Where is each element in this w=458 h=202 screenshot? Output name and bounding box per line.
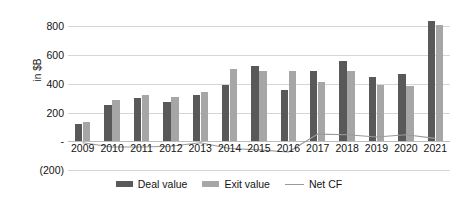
bar-exit-value [112, 100, 119, 142]
x-tick-label: 2016 [274, 142, 303, 154]
bar-exit-value [171, 97, 178, 142]
bar-exit-value [406, 86, 413, 141]
y-tick-label: (200) [24, 165, 64, 176]
y-tick-label: 400 [24, 79, 64, 90]
y-tick-label: - [24, 136, 64, 147]
bar-deal-value [193, 95, 200, 142]
y-tick-label: 200 [24, 108, 64, 119]
x-tick-label: 2021 [421, 142, 450, 154]
bar-deal-value [369, 77, 376, 142]
bar-exit-value [83, 122, 90, 141]
bar-deal-value [398, 74, 405, 142]
bar-deal-value [75, 124, 82, 141]
bar-deal-value [281, 90, 288, 142]
bar-deal-value [163, 102, 170, 142]
x-tick-label: 2014 [215, 142, 244, 154]
bar-exit-value [289, 71, 296, 141]
x-tick-label: 2020 [391, 142, 420, 154]
x-tick-label: 2012 [156, 142, 185, 154]
legend-item[interactable]: Deal value [116, 178, 188, 190]
chart-legend: Deal valueExit valueNet CF [0, 178, 458, 190]
bar-deal-value [104, 105, 111, 142]
x-tick-label: 2013 [186, 142, 215, 154]
bar-deal-value [222, 85, 229, 142]
x-tick-label: 2017 [303, 142, 332, 154]
deal-swatch [116, 181, 133, 187]
exit-swatch [202, 181, 219, 187]
bar-deal-value [251, 66, 258, 141]
legend-item[interactable]: Exit value [202, 178, 270, 190]
line-swatch [285, 184, 304, 185]
bar-deal-value [310, 71, 317, 141]
y-tick-label: 800 [24, 21, 64, 32]
x-tick-label: 2009 [68, 142, 97, 154]
bar-exit-value [377, 85, 384, 141]
y-axis-tick-labels: 800600400200-(200) [24, 0, 64, 202]
gridline [68, 170, 450, 171]
bar-exit-value [347, 71, 354, 141]
x-tick-label: 2019 [362, 142, 391, 154]
bar-exit-value [318, 82, 325, 141]
x-tick-label: 2010 [97, 142, 126, 154]
bar-exit-value [230, 69, 237, 141]
x-tick-label: 2011 [127, 142, 156, 154]
legend-item-label: Exit value [224, 178, 270, 190]
bar-deal-value [428, 21, 435, 142]
bar-deal-value [134, 98, 141, 141]
legend-item-label: Net CF [309, 178, 342, 190]
x-tick-label: 2015 [244, 142, 273, 154]
legend-item-label: Deal value [138, 178, 188, 190]
bar-deal-value [339, 61, 346, 141]
bar-exit-value [142, 95, 149, 141]
legend-item[interactable]: Net CF [285, 178, 342, 190]
chart-container: in $B 800600400200-(200) 200920102011201… [0, 0, 458, 202]
bar-exit-value [436, 25, 443, 141]
bar-exit-value [201, 92, 208, 141]
x-axis-tick-labels: 2009201020112012201320142015201620172018… [68, 142, 450, 156]
x-tick-label: 2018 [332, 142, 361, 154]
bar-exit-value [259, 71, 266, 141]
y-tick-label: 600 [24, 50, 64, 61]
